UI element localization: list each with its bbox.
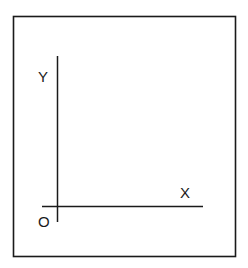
y-axis-label: Y [38,68,48,85]
coordinate-axes-diagram: Y X O [0,0,248,268]
origin-label: O [38,213,50,230]
x-axis-label: X [180,184,190,201]
